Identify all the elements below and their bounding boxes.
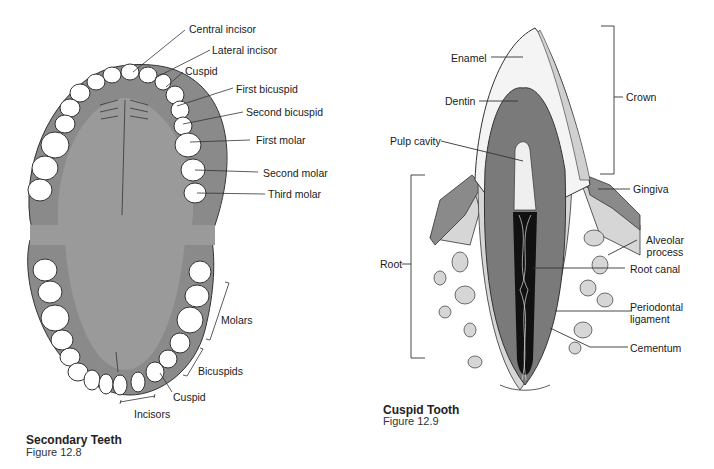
label-cuspid-lower: Cuspid <box>173 391 206 403</box>
label-bicuspids: Bicuspids <box>198 365 243 377</box>
label-first-molar: First molar <box>256 134 306 146</box>
figure-number-12-9: Figure 12.9 <box>383 415 439 427</box>
label-root-canal: Root canal <box>630 263 680 275</box>
label-molars: Molars <box>221 314 253 326</box>
label-second-bicuspid: Second bicuspid <box>246 106 323 118</box>
label-cementum: Cementum <box>630 342 681 354</box>
label-second-molar: Second molar <box>263 167 328 179</box>
label-alveolar-line2: process <box>640 246 690 258</box>
label-lateral-incisor: Lateral incisor <box>212 44 277 56</box>
label-alveolar-process: Alveolar process <box>640 234 690 258</box>
label-pulp-cavity: Pulp cavity <box>390 135 441 147</box>
figure-number-12-8: Figure 12.8 <box>26 446 82 458</box>
label-root: Root <box>380 258 402 270</box>
label-periodontal-line2: ligament <box>630 313 683 325</box>
label-alveolar-line1: Alveolar <box>640 234 690 246</box>
label-dentin: Dentin <box>445 95 475 107</box>
label-periodontal-ligament: Periodontal ligament <box>630 301 683 325</box>
label-first-bicuspid: First bicuspid <box>236 83 298 95</box>
label-gingiva: Gingiva <box>633 183 669 195</box>
label-crown: Crown <box>626 91 656 103</box>
label-periodontal-line1: Periodontal <box>630 301 683 313</box>
label-cuspid-upper: Cuspid <box>185 65 218 77</box>
label-incisors: Incisors <box>134 408 170 420</box>
label-central-incisor: Central incisor <box>189 23 256 35</box>
label-third-molar: Third molar <box>268 188 321 200</box>
label-enamel: Enamel <box>451 52 487 64</box>
secondary-teeth-diagram <box>0 0 714 469</box>
figure-title-secondary-teeth: Secondary Teeth <box>26 433 122 447</box>
